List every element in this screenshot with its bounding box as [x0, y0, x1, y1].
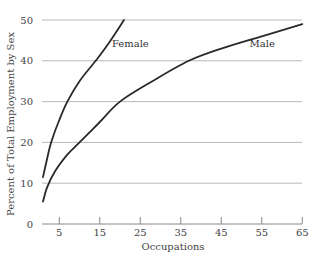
- series-labels: FemaleMale: [112, 38, 275, 49]
- x-tick-label: 45: [215, 227, 228, 238]
- x-axis: 5152535455565: [42, 217, 309, 238]
- x-tick-label: 5: [56, 227, 62, 238]
- x-tick-label: 65: [296, 227, 309, 238]
- x-tick-label: 15: [93, 227, 106, 238]
- line-chart: 01020304050 5152535455565 FemaleMale Occ…: [0, 0, 318, 266]
- x-tick-label: 35: [174, 227, 187, 238]
- y-tick-label: 30: [20, 96, 33, 107]
- series-line-male: [43, 24, 302, 202]
- y-tick-label: 0: [27, 219, 33, 230]
- x-tick-label: 55: [255, 227, 268, 238]
- series-label-male: Male: [250, 38, 275, 49]
- y-tick-label: 20: [20, 137, 33, 148]
- x-tick-label: 25: [134, 227, 147, 238]
- y-tick-label: 50: [20, 15, 33, 26]
- y-tick-label: 10: [20, 178, 33, 189]
- series-label-female: Female: [112, 38, 149, 49]
- x-axis-label: Occupations: [141, 241, 204, 252]
- y-axis-ticks: 01020304050: [20, 15, 33, 230]
- y-tick-label: 40: [20, 55, 33, 66]
- y-axis-label: Percent of Total Employment by Sex: [5, 32, 16, 216]
